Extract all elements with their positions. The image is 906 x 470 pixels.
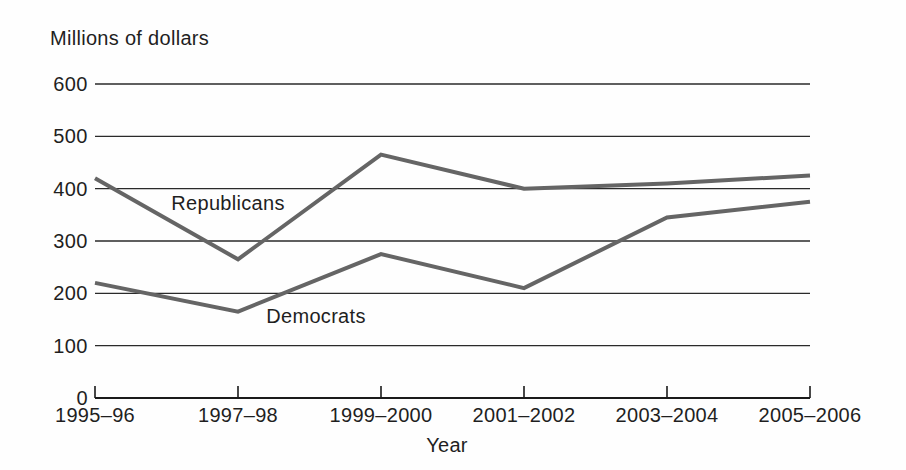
y-tick-label-300: 300 bbox=[0, 230, 88, 252]
series-line-democrats bbox=[95, 202, 810, 312]
series-label-republicans: Republicans bbox=[171, 192, 284, 214]
x-tick-label-5: 2005–2006 bbox=[759, 404, 862, 426]
y-tick-label-200: 200 bbox=[0, 282, 88, 304]
x-tick-label-1: 1997–98 bbox=[198, 404, 278, 426]
x-tick-label-2: 1999–2000 bbox=[330, 404, 433, 426]
x-tick-label-4: 2003–2004 bbox=[616, 404, 719, 426]
plot-area bbox=[0, 0, 906, 470]
y-tick-label-400: 400 bbox=[0, 178, 88, 200]
x-axis-title: Year bbox=[426, 434, 468, 456]
y-tick-label-100: 100 bbox=[0, 335, 88, 357]
y-tick-label-600: 600 bbox=[0, 73, 88, 95]
series-label-democrats: Democrats bbox=[266, 305, 365, 327]
x-tick-label-3: 2001–2002 bbox=[473, 404, 576, 426]
y-tick-label-500: 500 bbox=[0, 125, 88, 147]
x-tick-label-0: 1995–96 bbox=[55, 404, 135, 426]
line-chart-figure: Millions of dollars 0100200300400500600 … bbox=[0, 0, 906, 470]
